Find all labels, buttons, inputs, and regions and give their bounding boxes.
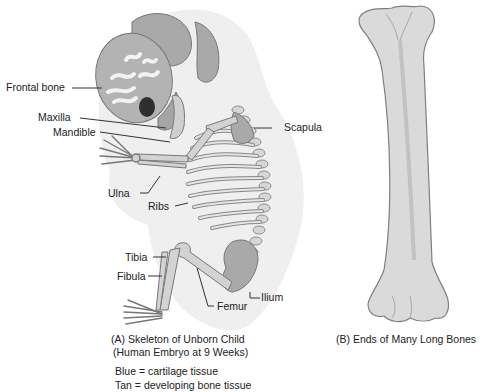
label-ribs: Ribs <box>148 201 169 212</box>
long-bone <box>359 6 448 322</box>
legend-cartilage: Blue = cartilage tissue <box>115 365 218 378</box>
caption-a-line1: (A) Skeleton of Unborn Child <box>111 333 245 346</box>
eye-socket <box>139 97 155 117</box>
label-mandible: Mandible <box>53 127 96 138</box>
label-tibia: Tibia <box>125 252 147 263</box>
label-scapula: Scapula <box>284 122 322 133</box>
label-ilium: Ilium <box>261 292 283 303</box>
label-fibula: Fibula <box>117 271 146 282</box>
label-frontal-bone: Frontal bone <box>6 82 65 93</box>
caption-a-line2: (Human Embryo at 9 Weeks) <box>113 346 248 359</box>
label-femur: Femur <box>217 301 247 312</box>
label-maxilla: Maxilla <box>38 112 71 123</box>
label-ulna: Ulna <box>108 188 130 199</box>
legend-bone: Tan = developing bone tissue <box>115 379 251 392</box>
caption-b: (B) Ends of Many Long Bones <box>336 333 476 346</box>
